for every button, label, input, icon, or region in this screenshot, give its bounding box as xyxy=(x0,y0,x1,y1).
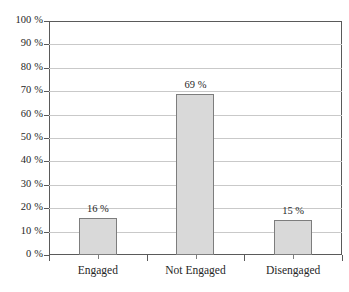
y-axis-tick-label: 90 % xyxy=(0,38,43,49)
bar-chart: 0 %10 %20 %30 %40 %50 %60 %70 %80 %90 %1… xyxy=(0,0,349,292)
x-axis-tick xyxy=(342,255,343,261)
y-axis-tick-label: 70 % xyxy=(0,85,43,96)
y-axis-tick-label: 30 % xyxy=(0,179,43,190)
x-axis-category-label: Disengaged xyxy=(244,264,342,277)
y-axis-tick-label: 0 % xyxy=(0,249,43,260)
bar[interactable] xyxy=(79,218,117,255)
bar-slot xyxy=(244,21,342,255)
bar-slot xyxy=(49,21,147,255)
x-axis-minor-tick xyxy=(293,255,294,259)
bar-slot xyxy=(147,21,245,255)
bar[interactable] xyxy=(274,220,312,255)
x-axis-category-label: Not Engaged xyxy=(147,264,245,277)
bar-value-label: 15 % xyxy=(282,205,304,216)
x-axis-tick xyxy=(244,255,245,261)
bar-value-label: 69 % xyxy=(185,79,207,90)
x-axis-tick xyxy=(49,255,50,261)
bar[interactable] xyxy=(176,94,214,255)
y-axis-tick-label: 20 % xyxy=(0,202,43,213)
y-axis-tick-label: 50 % xyxy=(0,132,43,143)
x-axis-tick xyxy=(147,255,148,261)
x-axis-minor-tick xyxy=(196,255,197,259)
bars-layer xyxy=(49,21,342,255)
x-axis-minor-tick xyxy=(98,255,99,259)
bar-value-label: 16 % xyxy=(87,203,109,214)
x-axis-category-label: Engaged xyxy=(49,264,147,277)
y-axis-tick-label: 100 % xyxy=(0,15,43,26)
y-axis-tick-label: 10 % xyxy=(0,226,43,237)
y-axis-tick-label: 80 % xyxy=(0,62,43,73)
y-axis-tick-label: 60 % xyxy=(0,109,43,120)
y-axis-tick-label: 40 % xyxy=(0,155,43,166)
